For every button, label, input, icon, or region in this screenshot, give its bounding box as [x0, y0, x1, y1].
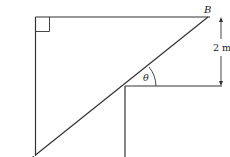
geometry-diagram: B 2 m θ A — [0, 0, 230, 157]
dimension-arrow-top-icon — [219, 17, 223, 22]
label-dimension: 2 m — [213, 42, 230, 53]
dimension-arrow-bottom-icon — [219, 81, 223, 86]
label-angle-theta: θ — [143, 72, 149, 83]
right-angle-marker — [36, 17, 50, 32]
label-point-b: B — [203, 4, 211, 15]
angle-arc — [149, 67, 156, 86]
label-point-a: A — [28, 154, 36, 157]
